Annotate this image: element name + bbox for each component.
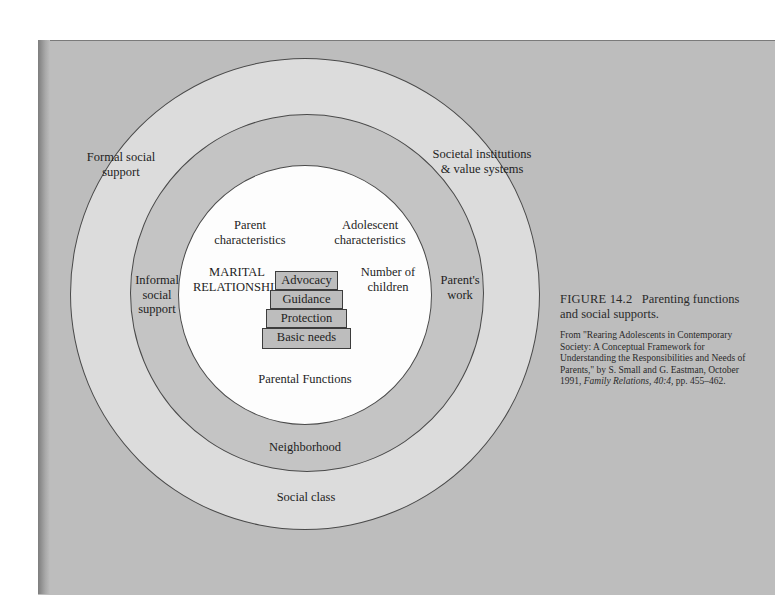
label-number-of-children: Number of children: [360, 265, 416, 294]
label-parental-functions: Parental Functions: [240, 372, 370, 387]
label-parent-characteristics: Parent characteristics: [210, 218, 290, 247]
label-formal-social-support: Formal social support: [86, 150, 156, 179]
pyramid-step-protection: Protection: [266, 309, 347, 328]
label-neighborhood: Neighborhood: [255, 440, 355, 455]
torn-page-edge: [38, 40, 50, 594]
pyramid-step-guidance: Guidance: [270, 290, 343, 309]
label-adolescent-characteristics: Adolescent characteristics: [325, 218, 415, 247]
label-marital-line1: MARITAL: [192, 265, 282, 280]
label-informal-social-support: Informal social support: [132, 273, 182, 317]
pyramid-step-advocacy: Advocacy: [275, 271, 338, 290]
source-pages: pp. 455–462.: [676, 376, 726, 386]
label-marital-line2: RELATIONSHIP: [192, 280, 282, 295]
source-journal: Family Relations, 40:4,: [584, 376, 674, 386]
pyramid-step-basic-needs: Basic needs: [262, 328, 351, 349]
caption-source: From "Rearing Adolescents in Contemporar…: [560, 330, 760, 388]
figure-number: FIGURE 14.2: [560, 292, 632, 306]
label-marital-relationship: MARITAL RELATIONSHIP: [192, 265, 282, 294]
figure-caption: FIGURE 14.2 Parenting functions and soci…: [560, 292, 760, 388]
label-societal-institutions: Societal institutions & value systems: [432, 147, 532, 176]
caption-title: FIGURE 14.2 Parenting functions and soci…: [560, 292, 760, 322]
label-parents-work: Parent's work: [432, 273, 488, 302]
label-social-class: Social class: [266, 490, 346, 505]
